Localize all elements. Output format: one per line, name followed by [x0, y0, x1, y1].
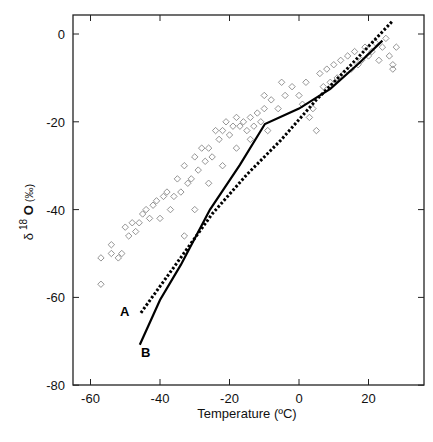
data-point — [390, 66, 396, 72]
y-tick-label: -20 — [46, 115, 65, 130]
annotation-B: B — [141, 345, 150, 360]
data-point — [324, 66, 330, 72]
data-point — [278, 79, 284, 85]
data-point — [244, 127, 250, 133]
annotation-A: A — [120, 304, 130, 319]
y-tick-label: -60 — [46, 290, 65, 305]
data-point — [383, 35, 389, 41]
data-point — [230, 123, 236, 129]
data-point — [171, 193, 177, 199]
data-point — [192, 154, 198, 160]
data-point — [98, 255, 104, 261]
data-point — [226, 132, 232, 138]
data-point — [212, 127, 218, 133]
x-tick-label: 0 — [295, 391, 302, 406]
data-point — [265, 127, 271, 133]
data-point — [132, 228, 138, 234]
data-point — [219, 163, 225, 169]
data-point — [205, 145, 211, 151]
data-point — [202, 158, 208, 164]
data-point — [181, 233, 187, 239]
data-point — [306, 114, 312, 120]
x-tick-label: -60 — [81, 391, 100, 406]
data-point — [192, 206, 198, 212]
data-point — [233, 114, 239, 120]
chart: -60-40-200200-20-40-60-80 AB Temperature… — [0, 0, 433, 442]
x-tick-label: -40 — [151, 391, 170, 406]
data-point — [209, 154, 215, 160]
data-point — [289, 83, 295, 89]
data-point — [254, 110, 260, 116]
data-point — [126, 233, 132, 239]
svg-text:δ 18 O (‰): δ 18 O (‰) — [18, 184, 36, 240]
data-point — [251, 123, 257, 129]
data-point — [313, 127, 319, 133]
x-tick-label: 20 — [361, 391, 375, 406]
y-axis-title: δ 18 O (‰) — [18, 184, 36, 240]
y-tick-label: -40 — [46, 203, 65, 218]
data-point — [393, 44, 399, 50]
data-point — [223, 119, 229, 125]
data-point — [261, 105, 267, 111]
data-point — [219, 127, 225, 133]
data-point — [129, 220, 135, 226]
data-point — [376, 57, 382, 63]
data-point — [351, 48, 357, 54]
data-point — [247, 136, 253, 142]
data-point — [247, 114, 253, 120]
axis-ticks: -60-40-200200-20-40-60-80 — [46, 15, 424, 406]
data-point — [98, 281, 104, 287]
data-point — [108, 242, 114, 248]
data-point — [303, 79, 309, 85]
plot-frame — [73, 15, 424, 385]
data-point — [205, 180, 211, 186]
data-point — [275, 105, 281, 111]
x-axis-title: Temperature (ºC) — [197, 406, 296, 421]
data-point — [136, 220, 142, 226]
data-point — [261, 92, 267, 98]
data-point — [390, 62, 396, 68]
data-point — [296, 92, 302, 98]
data-point — [317, 70, 323, 76]
data-point — [344, 53, 350, 59]
data-point — [258, 119, 264, 125]
data-point — [108, 250, 114, 256]
y-tick-label: -80 — [46, 378, 65, 393]
data-point — [146, 215, 152, 221]
line-B — [140, 41, 383, 345]
data-point — [181, 163, 187, 169]
data-point — [174, 176, 180, 182]
regression-lines — [140, 21, 393, 345]
data-point — [379, 44, 385, 50]
data-point — [199, 145, 205, 151]
data-point — [320, 83, 326, 89]
data-point — [157, 215, 163, 221]
data-point — [195, 167, 201, 173]
x-tick-label: -20 — [220, 391, 239, 406]
data-point — [233, 145, 239, 151]
data-point — [122, 224, 128, 230]
data-point — [331, 62, 337, 68]
data-point — [268, 97, 274, 103]
data-point — [338, 57, 344, 63]
data-point — [167, 206, 173, 212]
y-tick-label: 0 — [58, 27, 65, 42]
data-point — [282, 92, 288, 98]
data-point — [386, 53, 392, 59]
data-point — [178, 189, 184, 195]
scatter-points — [98, 35, 400, 287]
data-point — [216, 136, 222, 142]
